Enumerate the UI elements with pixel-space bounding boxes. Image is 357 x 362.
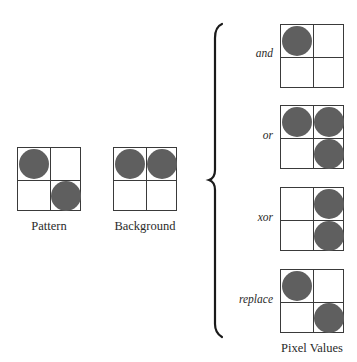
or-result-grid bbox=[280, 105, 344, 169]
pixel-on bbox=[314, 189, 344, 219]
pixel-cell bbox=[281, 188, 313, 220]
pixel-cell bbox=[281, 220, 313, 252]
pixel-cell bbox=[281, 302, 313, 334]
pixel-cell bbox=[313, 270, 345, 302]
pixel-on bbox=[282, 26, 312, 56]
xor-result-grid bbox=[280, 187, 344, 251]
pixel-cell bbox=[313, 138, 345, 170]
pixel-cell bbox=[281, 25, 313, 57]
pixel-on bbox=[314, 139, 344, 169]
op-label-replace: replace bbox=[213, 293, 273, 305]
pixel-cell bbox=[281, 57, 313, 89]
pixel-on bbox=[282, 107, 312, 137]
pixel-cell bbox=[313, 25, 345, 57]
op-label-xor: xor bbox=[213, 211, 273, 223]
pixel-cell bbox=[313, 106, 345, 138]
pixel-cell bbox=[313, 188, 345, 220]
replace-result-grid bbox=[280, 269, 344, 333]
pixel-cell bbox=[313, 57, 345, 89]
pixel-cell bbox=[281, 270, 313, 302]
op-label-and: and bbox=[213, 47, 273, 59]
pixel-cell bbox=[313, 220, 345, 252]
pixel-on bbox=[282, 271, 312, 301]
pixel-values-caption: Pixel Values bbox=[262, 341, 357, 356]
pixel-cell bbox=[281, 138, 313, 170]
pixel-cell bbox=[313, 302, 345, 334]
pixel-on bbox=[314, 221, 344, 251]
pixel-cell bbox=[281, 106, 313, 138]
op-label-or: or bbox=[213, 129, 273, 141]
pixel-on bbox=[314, 303, 344, 333]
pixel-on bbox=[314, 107, 344, 137]
and-result-grid bbox=[280, 24, 344, 88]
